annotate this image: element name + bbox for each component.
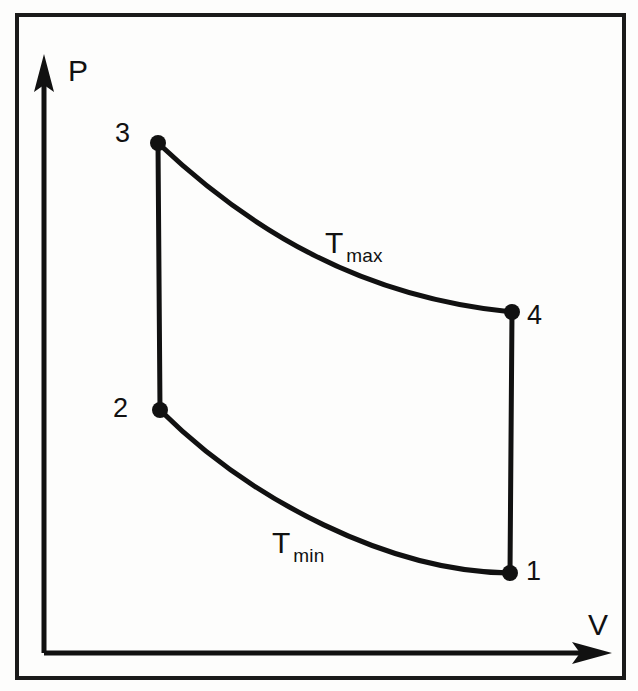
isotherm-tmax-subscript: max [346, 245, 383, 266]
process-1-to-2-isotherm-tmin [160, 410, 510, 573]
isotherm-tmax-label: Tmax [325, 228, 380, 258]
state-point-2-label: 2 [113, 395, 128, 422]
pv-diagram-figure: P V 3 4 2 1 Tmax Tmin [0, 0, 638, 691]
isotherm-tmax-base: T [325, 226, 343, 259]
isotherm-tmin-subscript: min [293, 545, 324, 566]
state-point-3-marker [150, 135, 166, 151]
state-point-2-marker [152, 402, 168, 418]
state-point-4-marker [504, 304, 520, 320]
state-point-4-label: 4 [527, 302, 542, 329]
state-point-3-label: 3 [115, 120, 130, 147]
pv-diagram-canvas [0, 0, 638, 691]
volume-axis-label: V [588, 610, 608, 640]
isotherm-tmin-label: Tmin [272, 528, 322, 558]
process-4-to-1-isochore [510, 312, 512, 573]
isotherm-tmin-base: T [272, 526, 290, 559]
state-point-1-marker [502, 565, 518, 581]
state-point-1-label: 1 [526, 558, 541, 585]
process-2-to-3-isochore [158, 143, 160, 410]
pressure-axis-label: P [68, 56, 88, 86]
